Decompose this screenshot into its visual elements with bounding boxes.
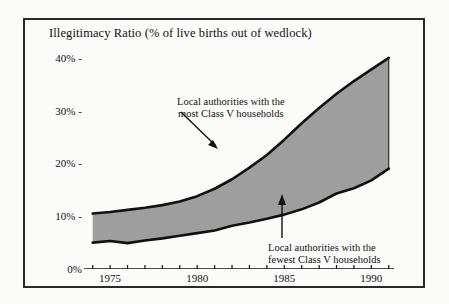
y-tick-dash: -	[78, 210, 82, 222]
annotation-lower-line2: fewest Class V households	[268, 254, 381, 266]
x-tick-label-1990: 1990	[360, 272, 382, 284]
y-tick-dash: -	[78, 105, 82, 117]
x-tick-label-1985: 1985	[273, 272, 295, 284]
x-tick-label-1975: 1975	[99, 272, 121, 284]
y-tick-label-10pct: 10%-	[55, 210, 82, 222]
y-tick-label-40pct: 40%-	[55, 52, 82, 64]
y-tick-dash: -	[78, 157, 82, 169]
figure-page: Illegitimacy Ratio (% of live births out…	[0, 0, 449, 304]
figure-frame: Illegitimacy Ratio (% of live births out…	[23, 18, 425, 288]
annotation-lower-line1: Local authorities with the	[268, 242, 381, 254]
area-chart-svg	[84, 42, 394, 269]
annotation-lower: Local authorities with the fewest Class …	[268, 242, 381, 266]
y-tick-label-20pct: 20%-	[55, 157, 82, 169]
area-band-fill	[93, 58, 389, 243]
x-axis-tick-labels: 1975198019851990	[84, 272, 394, 292]
chart-title: Illegitimacy Ratio (% of live births out…	[49, 26, 312, 41]
plot-area	[84, 42, 394, 269]
y-tick-label-0pct: 0%	[67, 263, 82, 275]
annotation-upper-line2: most Class V households	[177, 108, 285, 120]
y-axis-tick-labels: 0%10%-20%-30%-40%-	[25, 20, 82, 286]
y-tick-dash: -	[78, 52, 82, 64]
annotation-upper: Local authorities with the most Class V …	[177, 96, 285, 120]
x-tick-label-1980: 1980	[186, 272, 208, 284]
y-tick-label-30pct: 30%-	[55, 105, 82, 117]
annotation-upper-line1: Local authorities with the	[177, 96, 285, 108]
